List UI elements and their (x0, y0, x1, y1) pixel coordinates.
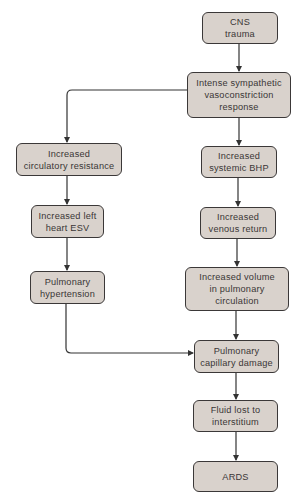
node-pulmonary-hypertension: Pulmonary hypertension (30, 271, 105, 304)
edge-pulm-htn-to-capillary-damage (66, 304, 193, 353)
node-label: Increased volume in pulmonary circulatio… (199, 271, 275, 307)
node-venous-return: Increased venous return (200, 207, 276, 239)
node-label: Increased left heart ESV (39, 210, 97, 234)
node-capillary-damage: Pulmonary capillary damage (194, 340, 279, 373)
node-label: Increased systemic BHP (209, 150, 269, 174)
node-label: Fluid lost to interstitium (211, 404, 261, 428)
node-sympathetic-response: Intense sympathetic vasoconstriction res… (187, 72, 291, 118)
node-cns-trauma: CNS trauma (202, 12, 278, 44)
node-circulatory-resistance: Increased circulatory resistance (16, 143, 122, 176)
flowchart-canvas: CNS trauma Intense sympathetic vasoconst… (0, 0, 305, 504)
node-label: Increased venous return (209, 211, 268, 235)
node-label: Intense sympathetic vasoconstriction res… (196, 77, 282, 113)
node-ards: ARDS (193, 461, 278, 492)
node-systemic-bhp: Increased systemic BHP (201, 146, 277, 178)
node-fluid-lost: Fluid lost to interstitium (193, 400, 278, 432)
node-left-heart-esv: Increased left heart ESV (31, 205, 104, 238)
node-label: Pulmonary hypertension (40, 276, 95, 300)
node-label: Increased circulatory resistance (24, 148, 115, 172)
edge-sympathetic-to-circ-resistance (67, 90, 187, 142)
node-pulmonary-volume: Increased volume in pulmonary circulatio… (185, 267, 289, 311)
node-label: ARDS (222, 471, 248, 483)
node-label: CNS trauma (225, 16, 255, 40)
node-label: Pulmonary capillary damage (200, 345, 273, 369)
